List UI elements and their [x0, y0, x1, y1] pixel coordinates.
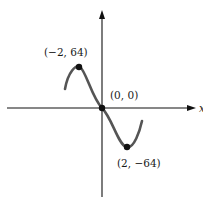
graph: (−2, 64) (0, 0) (2, −64) x: [0, 0, 203, 197]
x-axis-arrow-icon: [187, 105, 196, 111]
min-point: [124, 144, 130, 150]
min-point-label: (2, −64): [117, 157, 161, 169]
max-point: [76, 64, 82, 70]
max-point-label: (−2, 64): [44, 46, 88, 58]
origin-point-label: (0, 0): [110, 89, 138, 101]
y-axis-arrow-icon: [99, 10, 105, 19]
x-axis-label: x: [199, 102, 203, 114]
origin-point: [99, 105, 105, 111]
